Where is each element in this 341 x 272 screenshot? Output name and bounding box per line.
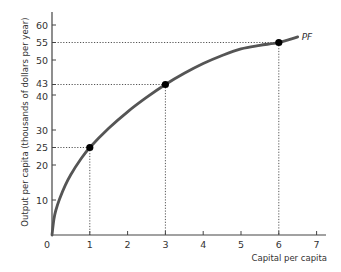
guide-lines [52, 43, 279, 236]
x-tick-label-6: 6 [276, 239, 282, 250]
point-1-25 [86, 144, 93, 151]
y-tick-label-10: 10 [36, 195, 48, 206]
x-tick-label-7: 7 [314, 239, 320, 250]
x-tick-label-3: 3 [162, 239, 168, 250]
x-tick-label-5: 5 [238, 239, 244, 250]
highlighted-points [86, 39, 282, 151]
x-tick-label-1: 1 [87, 239, 93, 250]
x-ticks: 01234567 [44, 231, 320, 250]
y-ticks: 102025304043505560 [36, 20, 56, 206]
point-3-43 [162, 81, 169, 88]
y-tick-label-43: 43 [36, 78, 48, 89]
x-tick-label-4: 4 [200, 239, 206, 250]
y-tick-label-20: 20 [36, 160, 48, 171]
point-6-55 [275, 39, 282, 46]
pf-curve [52, 37, 298, 235]
y-tick-label-60: 60 [36, 20, 48, 31]
production-function-chart: 01234567 102025304043505560 PF Capital p… [0, 0, 341, 272]
x-tick-label-2: 2 [125, 239, 131, 250]
axes [52, 12, 326, 235]
y-tick-label-25: 25 [36, 142, 48, 153]
y-tick-label-55: 55 [36, 37, 48, 48]
y-tick-label-30: 30 [36, 125, 48, 136]
y-tick-label-50: 50 [36, 55, 48, 66]
series-label-pf: PF [302, 32, 313, 42]
x-axis-title: Capital per capita [251, 253, 327, 263]
x-tick-label-0: 0 [44, 239, 50, 250]
y-axis-title: Output per capita (thousands of dollars … [20, 17, 30, 226]
y-tick-label-40: 40 [36, 91, 48, 102]
